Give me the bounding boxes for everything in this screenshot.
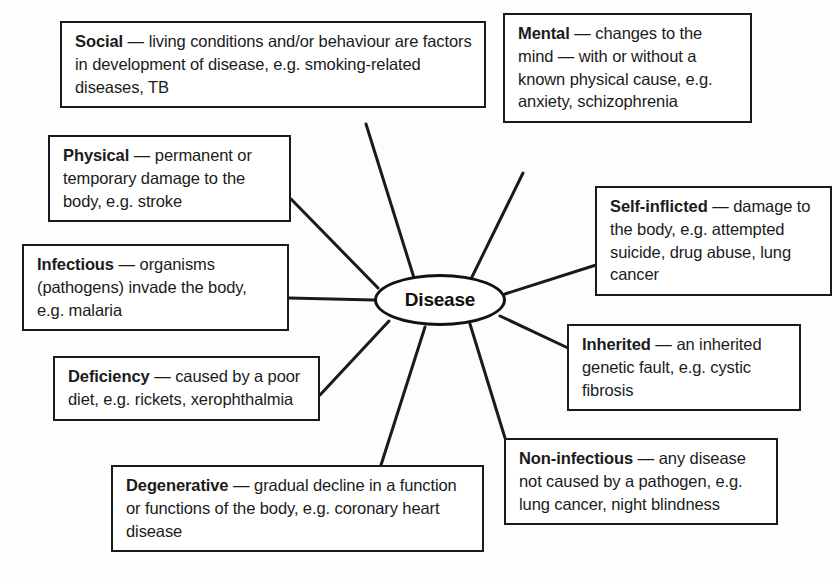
node-box-deficiency[interactable]: Deficiency — caused by a poor diet, e.g.… <box>53 356 320 421</box>
node-term-infectious: Infectious <box>37 255 114 273</box>
node-dash-mental: — <box>570 24 596 42</box>
connector-non-infectious <box>470 324 505 438</box>
connector-infectious <box>289 298 374 300</box>
node-dash-inherited: — <box>651 335 677 353</box>
node-dash-social: — <box>123 32 149 50</box>
node-box-infectious[interactable]: Infectious — organisms (pathogens) invad… <box>22 244 289 331</box>
node-dash-non-infectious: — <box>633 449 659 467</box>
node-term-social: Social <box>75 32 123 50</box>
node-dash-self-inflicted: — <box>708 197 734 215</box>
node-term-degenerative: Degenerative <box>126 476 228 494</box>
node-term-deficiency: Deficiency <box>68 367 150 385</box>
node-dash-deficiency: — <box>150 367 176 385</box>
node-box-self-inflicted[interactable]: Self-inflicted — damage to the body, e.g… <box>595 186 832 296</box>
connector-inherited <box>500 316 568 348</box>
center-node-label: Disease <box>405 289 475 311</box>
node-term-mental: Mental <box>518 24 570 42</box>
node-box-mental[interactable]: Mental — changes to the mind — with or w… <box>503 13 752 123</box>
node-box-physical[interactable]: Physical — permanent or temporary damage… <box>48 135 291 222</box>
connector-degenerative <box>381 327 425 465</box>
node-box-inherited[interactable]: Inherited — an inherited genetic fault, … <box>567 324 801 411</box>
node-dash-infectious: — <box>114 255 140 273</box>
disease-mind-map-diagram: Social — living conditions and/or behavi… <box>0 0 839 577</box>
connector-physical <box>291 199 378 288</box>
connector-mental <box>470 173 523 281</box>
node-box-degenerative[interactable]: Degenerative — gradual decline in a func… <box>111 465 484 552</box>
node-box-non-infectious[interactable]: Non-infectious — any disease not caused … <box>504 438 778 525</box>
node-term-physical: Physical <box>63 146 129 164</box>
connector-deficiency <box>320 321 389 395</box>
connector-social <box>366 124 415 281</box>
node-box-social[interactable]: Social — living conditions and/or behavi… <box>60 21 486 108</box>
node-dash-physical: — <box>129 146 155 164</box>
node-dash-degenerative: — <box>228 476 254 494</box>
node-term-self-inflicted: Self-inflicted <box>610 197 708 215</box>
connector-self-inflicted <box>505 265 596 294</box>
center-node-disease[interactable]: Disease <box>374 274 506 326</box>
node-term-non-infectious: Non-infectious <box>519 449 633 467</box>
node-term-inherited: Inherited <box>582 335 651 353</box>
